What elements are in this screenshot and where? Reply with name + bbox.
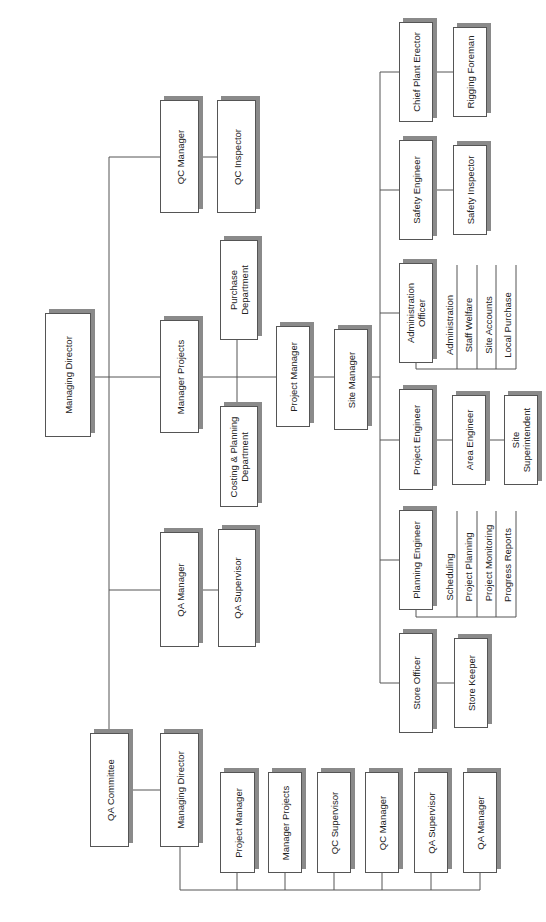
qc-manager-box[interactable]: QC Manager bbox=[160, 100, 199, 213]
node-label: Site Manager bbox=[346, 351, 357, 408]
safety-inspector-box[interactable]: Safety Inspector bbox=[453, 145, 487, 235]
store-officer-box[interactable]: Store Officer bbox=[399, 633, 433, 733]
committee-member-qa-supervisor[interactable]: QA Supervisor bbox=[414, 772, 448, 873]
qa-manager-box[interactable]: QA Manager bbox=[160, 532, 199, 647]
node-label: Managing Director bbox=[174, 751, 185, 829]
node-label: QA Supervisor bbox=[232, 557, 243, 618]
node-label: Project Manager bbox=[232, 788, 243, 858]
node-label: QA Committee bbox=[104, 759, 115, 821]
qc-inspector-box[interactable]: QC Inspector bbox=[217, 100, 256, 213]
node-label: QC Manager bbox=[174, 129, 185, 183]
node-label: Managing Director bbox=[63, 336, 74, 414]
node-label: Chief Plant Erector bbox=[411, 32, 422, 112]
committee-member-qc-manager[interactable]: QC Manager bbox=[365, 772, 399, 873]
committee-member-manager-projects[interactable]: Manager Projects bbox=[268, 772, 302, 873]
node-label: Store Keeper bbox=[466, 655, 477, 711]
node-label: QC Inspector bbox=[231, 129, 242, 185]
node-label: Area Engineer bbox=[464, 410, 475, 471]
chief-plant-erector-box[interactable]: Chief Plant Erector bbox=[399, 22, 433, 122]
project-engineer-box[interactable]: Project Engineer bbox=[399, 389, 433, 490]
planning-duty-scheduling: Scheduling bbox=[444, 553, 455, 600]
node-label: QA Manager bbox=[475, 796, 486, 849]
planning-duty-project-planning: Project Planning bbox=[463, 532, 474, 601]
node-label: Store Officer bbox=[411, 656, 422, 709]
node-label: QA Manager bbox=[174, 563, 185, 616]
planning-duty-progress-reports: Progress Reports bbox=[502, 528, 513, 602]
admin-duty-site-accounts: Site Accounts bbox=[483, 296, 494, 354]
node-label: Safety Engineer bbox=[411, 156, 422, 224]
committee-member-project-manager[interactable]: Project Manager bbox=[220, 772, 255, 873]
node-label: Rigging Foreman bbox=[465, 36, 476, 109]
managing-director-committee-box[interactable]: Managing Director bbox=[160, 733, 199, 847]
node-label: Purchase Department bbox=[228, 265, 250, 315]
area-engineer-box[interactable]: Area Engineer bbox=[452, 395, 486, 485]
node-label: Administration Officer bbox=[405, 283, 427, 343]
node-label: Manager Projects bbox=[280, 785, 291, 859]
node-label: Manager Projects bbox=[174, 339, 185, 413]
node-label: QC Supervisor bbox=[329, 791, 340, 853]
costing-planning-department-box[interactable]: Costing & Planning Department bbox=[220, 406, 258, 507]
rigging-foreman-box[interactable]: Rigging Foreman bbox=[453, 27, 487, 117]
planning-duty-project-monitoring: Project Monitoring bbox=[483, 525, 494, 602]
node-label: Project Engineer bbox=[411, 404, 422, 474]
safety-engineer-box[interactable]: Safety Engineer bbox=[399, 140, 433, 240]
admin-duty-local-purchase: Local Purchase bbox=[502, 292, 513, 357]
purchase-department-box[interactable]: Purchase Department bbox=[220, 240, 258, 340]
node-label: Safety Inspector bbox=[465, 156, 476, 225]
committee-member-qa-manager[interactable]: QA Manager bbox=[463, 772, 497, 873]
planning-engineer-box[interactable]: Planning Engineer bbox=[399, 510, 433, 610]
qa-supervisor-box[interactable]: QA Supervisor bbox=[218, 529, 256, 647]
node-label: Site Superintendent bbox=[510, 408, 532, 472]
store-keeper-box[interactable]: Store Keeper bbox=[454, 638, 488, 728]
node-label: Planning Engineer bbox=[411, 521, 422, 599]
node-label: Project Manager bbox=[288, 342, 299, 412]
managing-director-box[interactable]: Managing Director bbox=[45, 313, 91, 437]
manager-projects-box[interactable]: Manager Projects bbox=[160, 320, 199, 433]
node-label: QA Supervisor bbox=[426, 792, 437, 853]
site-superintendent-box[interactable]: Site Superintendent bbox=[504, 395, 538, 485]
project-manager-box[interactable]: Project Manager bbox=[276, 326, 310, 427]
node-label: Costing & Planning Department bbox=[228, 416, 250, 497]
committee-member-qc-supervisor[interactable]: QC Supervisor bbox=[317, 772, 351, 873]
node-label: QC Manager bbox=[377, 795, 388, 849]
admin-duty-administration: Administration bbox=[444, 295, 455, 355]
admin-duty-staff-welfare: Staff Welfare bbox=[463, 298, 474, 353]
administration-officer-box[interactable]: Administration Officer bbox=[399, 263, 433, 363]
site-manager-box[interactable]: Site Manager bbox=[334, 329, 368, 430]
qa-committee-box[interactable]: QA Committee bbox=[90, 733, 129, 847]
